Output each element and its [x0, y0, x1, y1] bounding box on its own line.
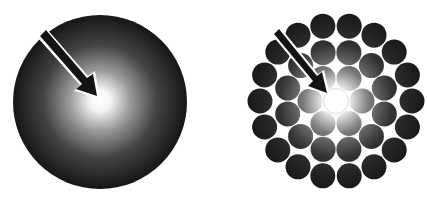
cluster-circle — [382, 40, 407, 65]
cluster-circle — [337, 111, 362, 136]
cluster-circle — [372, 76, 397, 101]
cluster-circle — [395, 63, 420, 88]
cluster-circle — [362, 154, 387, 179]
cluster-circle — [382, 137, 407, 162]
cluster-circle — [350, 89, 375, 114]
cluster-circle — [337, 14, 362, 39]
cluster-circle — [275, 76, 300, 101]
cluster-circle — [311, 137, 336, 162]
cluster-circle — [275, 101, 300, 126]
diagram-canvas — [0, 0, 427, 198]
cluster-circle — [310, 163, 335, 188]
continuous-gradient-disc — [13, 15, 187, 189]
cluster-circle — [359, 53, 384, 78]
cluster-circle — [337, 66, 362, 91]
cluster-circle — [288, 124, 313, 149]
cluster-circle — [298, 89, 323, 114]
cluster-circle — [395, 115, 420, 140]
discrete-circle-cluster — [248, 14, 425, 189]
cluster-circle — [336, 40, 361, 65]
cluster-circle — [359, 124, 384, 149]
cluster-circle — [336, 137, 361, 162]
cluster-circle — [372, 101, 397, 126]
cluster-circle — [400, 89, 425, 114]
cluster-circle — [252, 115, 277, 140]
cluster-circle — [310, 14, 335, 39]
cluster-circle — [337, 163, 362, 188]
cluster-circle — [252, 63, 277, 88]
cluster-circle — [362, 23, 387, 48]
cluster-circle — [265, 137, 290, 162]
cluster-circle — [311, 40, 336, 65]
cluster-circle — [286, 154, 311, 179]
cluster-circle — [311, 111, 336, 136]
cluster-circle — [248, 89, 273, 114]
